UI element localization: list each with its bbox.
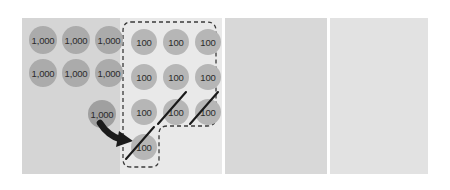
hundred-disc[interactable]: 100	[195, 29, 221, 55]
tens-panel	[225, 18, 327, 174]
thousand-disc[interactable]: 1,000	[29, 59, 57, 87]
disc-label: 1,000	[98, 35, 121, 46]
thousand-disc[interactable]: 1,000	[62, 26, 90, 54]
disc-label: 1,000	[91, 109, 114, 120]
ones-panel	[330, 18, 428, 174]
disc-label: 100	[136, 107, 151, 118]
disc-label: 100	[200, 37, 215, 48]
disc-label: 1,000	[98, 68, 121, 79]
thousand-disc-regrouping[interactable]: 1,000	[88, 100, 116, 128]
disc-label: 100	[136, 142, 151, 153]
thousand-disc[interactable]: 1,000	[95, 59, 123, 87]
disc-label: 1,000	[65, 35, 88, 46]
hundred-disc[interactable]: 100	[131, 99, 157, 125]
disc-label: 1,000	[32, 35, 55, 46]
disc-label: 100	[168, 72, 183, 83]
hundred-disc[interactable]: 100	[131, 29, 157, 55]
disc-label: 1,000	[65, 68, 88, 79]
disc-label: 100	[200, 107, 215, 118]
thousand-disc[interactable]: 1,000	[29, 26, 57, 54]
disc-label: 100	[200, 72, 215, 83]
hundred-disc[interactable]: 100	[131, 64, 157, 90]
hundred-disc-crossed[interactable]: 100	[131, 134, 157, 160]
thousand-disc[interactable]: 1,000	[62, 59, 90, 87]
disc-label: 100	[136, 37, 151, 48]
hundred-disc-crossed[interactable]: 100	[163, 99, 189, 125]
diagram-canvas: 1,000 1,000 1,000 1,000 1,000 1,000 1,00…	[0, 0, 450, 190]
disc-label: 100	[168, 107, 183, 118]
disc-label: 100	[168, 37, 183, 48]
hundred-disc[interactable]: 100	[163, 29, 189, 55]
disc-label: 100	[136, 72, 151, 83]
hundred-disc-crossed[interactable]: 100	[195, 99, 221, 125]
hundred-disc[interactable]: 100	[163, 64, 189, 90]
hundred-disc[interactable]: 100	[195, 64, 221, 90]
disc-label: 1,000	[32, 68, 55, 79]
thousand-disc[interactable]: 1,000	[95, 26, 123, 54]
